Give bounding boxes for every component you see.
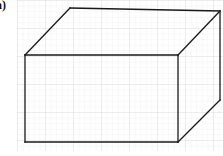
- edge-back-top: [70, 8, 220, 11]
- edge-bottom-right-depth: [178, 100, 220, 142]
- cuboid-edges: [25, 8, 220, 142]
- edge-top-left-depth: [25, 8, 70, 55]
- edge-top-right-depth: [178, 11, 220, 55]
- part-label: a): [0, 0, 6, 12]
- cuboid-drawing: [0, 0, 223, 156]
- figure-container: a): [0, 0, 223, 156]
